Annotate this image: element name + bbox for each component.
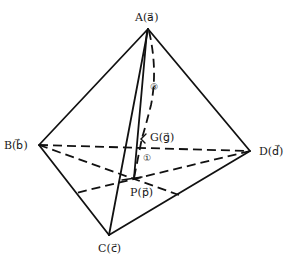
median-b-hidden	[39, 145, 179, 195]
edge-bd-hidden	[39, 145, 250, 151]
edge-ac	[109, 29, 148, 235]
vertex-b-label: B(b⃗)	[4, 138, 28, 152]
tetrahedron-diagram: A(a⃗) B(b⃗) C(c⃗) D(d⃗) G(g⃗) P(p⃗) ③ ①	[0, 0, 297, 260]
point-g-label: G(g⃗)	[150, 131, 174, 144]
vertex-d-label: D(d⃗)	[259, 144, 283, 158]
vertex-c-label: C(c⃗)	[98, 242, 121, 255]
ratio-marker-1: ①	[143, 153, 151, 163]
point-p-label: P(p⃗)	[130, 186, 153, 199]
vertex-a-label: A(a⃗)	[134, 11, 159, 24]
median-d-hidden	[76, 151, 250, 193]
edge-bc	[39, 145, 109, 235]
ratio-marker-3: ③	[150, 82, 158, 92]
edge-ab	[39, 29, 148, 145]
